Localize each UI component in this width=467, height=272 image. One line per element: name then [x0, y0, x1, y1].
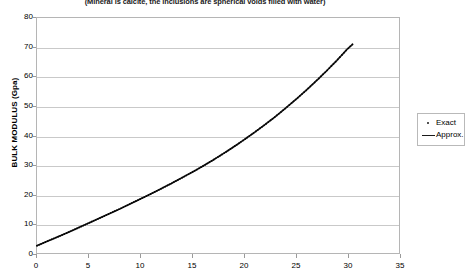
data-point [63, 233, 65, 235]
data-point [146, 195, 148, 197]
data-point [185, 175, 187, 177]
data-point [219, 155, 221, 157]
data-point [265, 123, 267, 125]
data-point [246, 137, 248, 139]
data-point [341, 54, 343, 56]
data-point [280, 111, 282, 113]
data-point [196, 169, 198, 171]
data-point [99, 217, 101, 219]
x-tick-label: 15 [177, 261, 207, 270]
data-point [158, 189, 160, 191]
x-tick-mark [348, 254, 349, 258]
data-point [307, 87, 309, 89]
y-tick-label: 40 [3, 132, 33, 140]
legend-item-approx: Approx. [421, 129, 462, 141]
data-point [324, 71, 326, 73]
data-point [251, 134, 253, 136]
data-point [82, 225, 84, 227]
data-point [303, 91, 305, 93]
data-point [291, 102, 293, 104]
data-point [122, 206, 124, 208]
data-point [198, 168, 200, 170]
data-point [93, 220, 95, 222]
data-point [244, 138, 246, 140]
data-point [322, 73, 324, 75]
data-point [343, 52, 345, 54]
data-point [232, 147, 234, 149]
data-point [211, 160, 213, 162]
data-point [188, 173, 190, 175]
data-point [38, 244, 40, 246]
data-point [257, 129, 259, 131]
chart-legend: Exact Approx. [417, 113, 465, 146]
data-point [335, 61, 337, 63]
data-point [129, 203, 131, 205]
data-point [135, 200, 137, 202]
data-point [106, 214, 108, 216]
data-point [299, 95, 301, 97]
data-point [78, 227, 80, 229]
data-point [242, 140, 244, 142]
legend-label-exact: Exact [436, 118, 456, 128]
data-point [192, 171, 194, 173]
data-point [162, 187, 164, 189]
data-point [261, 126, 263, 128]
data-point [118, 208, 120, 210]
data-point [194, 170, 196, 172]
legend-item-exact: Exact [421, 117, 462, 129]
data-point [152, 192, 154, 194]
y-tick-label: 20 [3, 191, 33, 199]
data-point [167, 185, 169, 187]
data-point [61, 234, 63, 236]
y-tick-label: 60 [3, 72, 33, 80]
y-axis-tick-group: 01020304050607080 [0, 17, 33, 254]
x-axis-tick-group: 05101520253035 [36, 254, 400, 272]
data-point [57, 236, 59, 238]
data-point [95, 219, 97, 221]
data-point [293, 101, 295, 103]
data-point [70, 230, 72, 232]
data-point [110, 212, 112, 214]
data-point [255, 131, 257, 133]
data-point [40, 243, 42, 245]
series-points-exact [36, 44, 353, 247]
data-point [270, 120, 272, 122]
data-point [326, 69, 328, 71]
data-point [177, 179, 179, 181]
data-point [91, 221, 93, 223]
data-point [190, 172, 192, 174]
data-point [116, 209, 118, 211]
data-point [49, 239, 51, 241]
data-point [240, 141, 242, 143]
series-line-approx [37, 44, 352, 245]
data-point [328, 67, 330, 69]
data-point [112, 211, 114, 213]
data-point [314, 82, 316, 84]
plot-area [36, 17, 400, 254]
data-point [352, 44, 354, 46]
data-point [72, 229, 74, 231]
data-point [137, 199, 139, 201]
legend-marker-dot-icon [421, 118, 436, 128]
data-point [339, 56, 341, 58]
data-point [127, 204, 129, 206]
data-point [230, 148, 232, 150]
data-point [236, 144, 238, 146]
x-tick-label: 10 [125, 261, 155, 270]
data-point [114, 210, 116, 212]
data-point [259, 127, 261, 129]
data-point [66, 232, 68, 234]
data-point [45, 241, 47, 243]
data-point [209, 161, 211, 163]
y-tick-label: 80 [3, 13, 33, 21]
data-point [148, 194, 150, 196]
x-tick-label: 5 [73, 261, 103, 270]
data-point [238, 142, 240, 144]
data-point [68, 231, 70, 233]
data-point [59, 235, 61, 237]
legend-label-approx: Approx. [436, 130, 464, 140]
data-point [154, 191, 156, 193]
data-point [131, 202, 133, 204]
data-point [103, 215, 105, 217]
data-point [156, 190, 158, 192]
